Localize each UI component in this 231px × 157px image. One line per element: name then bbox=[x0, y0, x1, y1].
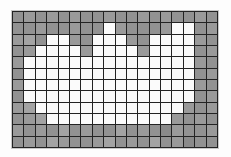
pixel-cell[interactable] bbox=[138, 137, 148, 147]
pixel-cell[interactable] bbox=[93, 23, 103, 33]
pixel-cell[interactable] bbox=[207, 80, 217, 90]
pixel-cell[interactable] bbox=[184, 91, 194, 101]
pixel-cell[interactable] bbox=[184, 137, 194, 147]
pixel-cell[interactable] bbox=[93, 80, 103, 90]
pixel-cell[interactable] bbox=[36, 103, 46, 113]
pixel-cell[interactable] bbox=[47, 12, 57, 22]
pixel-cell[interactable] bbox=[127, 114, 137, 124]
pixel-cell[interactable] bbox=[93, 114, 103, 124]
pixel-cell[interactable] bbox=[116, 114, 126, 124]
pixel-cell[interactable] bbox=[70, 35, 80, 45]
pixel-cell[interactable] bbox=[36, 12, 46, 22]
pixel-cell[interactable] bbox=[161, 12, 171, 22]
pixel-cell[interactable] bbox=[207, 69, 217, 79]
pixel-cell[interactable] bbox=[138, 103, 148, 113]
pixel-cell[interactable] bbox=[195, 80, 205, 90]
pixel-cell[interactable] bbox=[47, 80, 57, 90]
pixel-cell[interactable] bbox=[184, 125, 194, 135]
pixel-cell[interactable] bbox=[161, 69, 171, 79]
pixel-cell[interactable] bbox=[184, 35, 194, 45]
pixel-cell[interactable] bbox=[70, 125, 80, 135]
pixel-cell[interactable] bbox=[138, 23, 148, 33]
pixel-cell[interactable] bbox=[36, 125, 46, 135]
pixel-cell[interactable] bbox=[127, 57, 137, 67]
pixel-cell[interactable] bbox=[13, 46, 23, 56]
pixel-cell[interactable] bbox=[172, 91, 182, 101]
pixel-cell[interactable] bbox=[172, 69, 182, 79]
pixel-cell[interactable] bbox=[13, 12, 23, 22]
pixel-cell[interactable] bbox=[161, 91, 171, 101]
pixel-cell[interactable] bbox=[59, 114, 69, 124]
pixel-cell[interactable] bbox=[70, 12, 80, 22]
pixel-cell[interactable] bbox=[81, 23, 91, 33]
pixel-cell[interactable] bbox=[24, 80, 34, 90]
pixel-cell[interactable] bbox=[13, 137, 23, 147]
pixel-cell[interactable] bbox=[195, 46, 205, 56]
pixel-cell[interactable] bbox=[13, 114, 23, 124]
pixel-cell[interactable] bbox=[207, 103, 217, 113]
pixel-cell[interactable] bbox=[104, 35, 114, 45]
pixel-cell[interactable] bbox=[47, 69, 57, 79]
pixel-cell[interactable] bbox=[81, 137, 91, 147]
pixel-cell[interactable] bbox=[93, 91, 103, 101]
pixel-cell[interactable] bbox=[36, 35, 46, 45]
pixel-cell[interactable] bbox=[93, 46, 103, 56]
pixel-cell[interactable] bbox=[81, 35, 91, 45]
pixel-cell[interactable] bbox=[195, 137, 205, 147]
pixel-cell[interactable] bbox=[59, 23, 69, 33]
pixel-cell[interactable] bbox=[138, 69, 148, 79]
pixel-cell[interactable] bbox=[161, 137, 171, 147]
pixel-cell[interactable] bbox=[59, 137, 69, 147]
pixel-cell[interactable] bbox=[59, 35, 69, 45]
pixel-cell[interactable] bbox=[36, 23, 46, 33]
pixel-cell[interactable] bbox=[70, 69, 80, 79]
pixel-cell[interactable] bbox=[36, 91, 46, 101]
pixel-cell[interactable] bbox=[116, 137, 126, 147]
pixel-cell[interactable] bbox=[93, 12, 103, 22]
pixel-cell[interactable] bbox=[104, 125, 114, 135]
pixel-cell[interactable] bbox=[161, 23, 171, 33]
pixel-cell[interactable] bbox=[93, 69, 103, 79]
pixel-cell[interactable] bbox=[184, 114, 194, 124]
pixel-cell[interactable] bbox=[161, 57, 171, 67]
pixel-cell[interactable] bbox=[24, 103, 34, 113]
pixel-cell[interactable] bbox=[13, 57, 23, 67]
pixel-cell[interactable] bbox=[93, 57, 103, 67]
pixel-cell[interactable] bbox=[70, 103, 80, 113]
pixel-cell[interactable] bbox=[138, 12, 148, 22]
pixel-cell[interactable] bbox=[138, 80, 148, 90]
pixel-cell[interactable] bbox=[116, 46, 126, 56]
pixel-cell[interactable] bbox=[195, 114, 205, 124]
pixel-cell[interactable] bbox=[207, 114, 217, 124]
pixel-cell[interactable] bbox=[47, 46, 57, 56]
pixel-cell[interactable] bbox=[59, 125, 69, 135]
pixel-cell[interactable] bbox=[195, 103, 205, 113]
pixel-cell[interactable] bbox=[81, 69, 91, 79]
pixel-cell[interactable] bbox=[24, 35, 34, 45]
pixel-cell[interactable] bbox=[104, 91, 114, 101]
pixel-cell[interactable] bbox=[36, 46, 46, 56]
pixel-cell[interactable] bbox=[59, 80, 69, 90]
pixel-cell[interactable] bbox=[24, 91, 34, 101]
pixel-cell[interactable] bbox=[207, 57, 217, 67]
pixel-cell[interactable] bbox=[116, 80, 126, 90]
pixel-cell[interactable] bbox=[161, 80, 171, 90]
pixel-cell[interactable] bbox=[127, 69, 137, 79]
pixel-cell[interactable] bbox=[104, 46, 114, 56]
pixel-cell[interactable] bbox=[207, 23, 217, 33]
pixel-cell[interactable] bbox=[59, 12, 69, 22]
pixel-cell[interactable] bbox=[150, 23, 160, 33]
pixel-cell[interactable] bbox=[70, 23, 80, 33]
pixel-cell[interactable] bbox=[70, 46, 80, 56]
pixel-cell[interactable] bbox=[24, 137, 34, 147]
pixel-cell[interactable] bbox=[116, 35, 126, 45]
pixel-cell[interactable] bbox=[150, 12, 160, 22]
pixel-cell[interactable] bbox=[13, 103, 23, 113]
pixel-cell[interactable] bbox=[47, 137, 57, 147]
pixel-cell[interactable] bbox=[150, 125, 160, 135]
pixel-cell[interactable] bbox=[36, 114, 46, 124]
pixel-cell[interactable] bbox=[184, 103, 194, 113]
pixel-cell[interactable] bbox=[150, 103, 160, 113]
pixel-cell[interactable] bbox=[59, 69, 69, 79]
pixel-cell[interactable] bbox=[47, 103, 57, 113]
